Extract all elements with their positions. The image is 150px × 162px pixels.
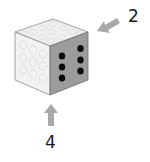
arrow-down-left-icon	[97, 18, 120, 33]
view-label-2: 2	[128, 8, 139, 25]
arrow-up-icon	[44, 104, 58, 126]
view-label-4: 4	[45, 134, 56, 151]
